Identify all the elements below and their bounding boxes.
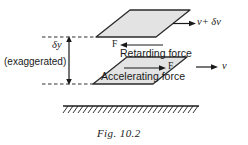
velocity-label-upper: ν+ δν bbox=[197, 17, 221, 28]
velocity-label-lower: ν bbox=[222, 61, 227, 72]
figure-caption: Fig. 10.2 bbox=[97, 128, 141, 139]
retarding-force-label: Retarding force bbox=[120, 48, 192, 59]
velocity-arrow-lower bbox=[196, 64, 218, 70]
delta-y-dimension-arrow bbox=[66, 36, 72, 85]
figure-container: ν+ δν ν δy (exaggerated) F F Retarding f… bbox=[0, 0, 248, 145]
force-label-upper: F bbox=[112, 40, 117, 50]
delta-y-label: δy bbox=[52, 40, 62, 51]
exaggerated-note-label: (exaggerated) bbox=[4, 57, 66, 67]
accelerating-force-label: Accelerating force bbox=[101, 71, 185, 82]
hatched-boundary-surface bbox=[63, 106, 199, 113]
